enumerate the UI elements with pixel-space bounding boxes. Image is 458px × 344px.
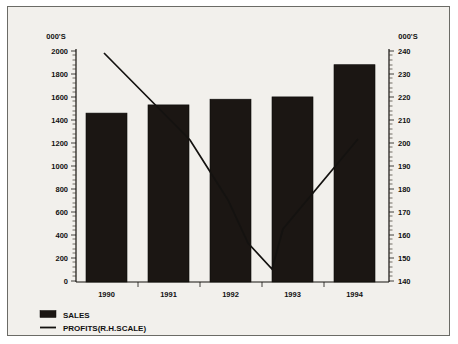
combo-bar-line-chart: 000'S 000'S 2000 1800 1600 1400 1200 — [8, 7, 451, 337]
left-tick-label: 1000 — [51, 162, 68, 171]
x-axis: 1990 1991 1992 1993 1994 — [76, 282, 389, 299]
right-tick-label: 200 — [398, 139, 411, 148]
x-category-label-1991: 1991 — [160, 290, 177, 299]
right-tick-label: 230 — [398, 70, 411, 79]
bar-1992[interactable] — [210, 99, 251, 282]
chart-legend: SALES PROFITS(R.H.SCALE) — [40, 311, 146, 333]
x-category-label-1993: 1993 — [284, 290, 301, 299]
left-tick-label: 1200 — [51, 139, 68, 148]
legend-item-profits[interactable]: PROFITS(R.H.SCALE) — [40, 324, 146, 333]
left-tick-label: 2000 — [51, 47, 68, 56]
right-tick-label: 170 — [398, 208, 411, 217]
right-tick-label: 140 — [398, 277, 411, 286]
x-category-label-1990: 1990 — [98, 290, 115, 299]
bar-1990[interactable] — [86, 113, 127, 282]
legend-item-sales[interactable]: SALES — [40, 311, 90, 320]
chart-plot-area: 000'S 000'S 2000 1800 1600 1400 1200 — [8, 7, 451, 337]
left-tick-label: 1400 — [51, 116, 68, 125]
chart-frame: 000'S 000'S 2000 1800 1600 1400 1200 — [7, 6, 450, 336]
left-tick-label: 200 — [55, 254, 68, 263]
left-tick-label: 800 — [55, 185, 68, 194]
right-axis-unit-label: 000'S — [398, 32, 417, 41]
left-axis-unit-label: 000'S — [46, 32, 65, 41]
right-tick-label: 220 — [398, 93, 411, 102]
right-axis: 240 230 220 210 200 190 180 170 — [389, 47, 411, 286]
right-tick-label: 240 — [398, 47, 411, 56]
legend-swatch-bar-icon — [40, 311, 56, 318]
x-category-label-1994: 1994 — [346, 290, 364, 299]
bar-series-sales — [86, 65, 375, 282]
right-tick-label: 150 — [398, 254, 411, 263]
left-tick-label: 1600 — [51, 93, 68, 102]
left-tick-label: 400 — [55, 231, 68, 240]
bar-1993[interactable] — [272, 97, 313, 282]
left-tick-label: 0 — [64, 277, 68, 286]
left-tick-label: 1800 — [51, 70, 68, 79]
left-axis: 2000 1800 1600 1400 1200 1000 800 600 — [51, 47, 76, 286]
bar-1991[interactable] — [148, 105, 189, 282]
left-axis-ticks: 2000 1800 1600 1400 1200 1000 800 600 — [51, 47, 76, 286]
right-tick-label: 180 — [398, 185, 411, 194]
legend-label-profits: PROFITS(R.H.SCALE) — [63, 324, 146, 333]
right-tick-label: 210 — [398, 116, 411, 125]
bar-1994[interactable] — [334, 65, 375, 282]
right-tick-label: 160 — [398, 231, 411, 240]
left-tick-label: 600 — [55, 208, 68, 217]
right-tick-label: 190 — [398, 162, 411, 171]
x-category-label-1992: 1992 — [222, 290, 239, 299]
legend-label-sales: SALES — [63, 311, 90, 320]
